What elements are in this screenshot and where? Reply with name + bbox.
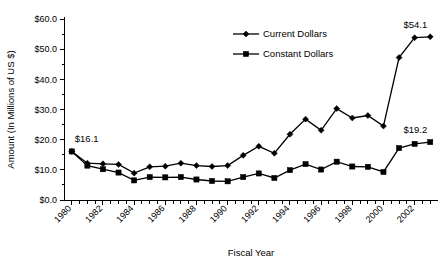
- x-axis-tick-label: 1994: [270, 203, 291, 224]
- series-constant-dollars: [69, 139, 433, 183]
- y-axis-title-group: Amount (In Millions of US $): [5, 50, 16, 168]
- x-axis-tick-label-group: 2002: [395, 203, 416, 224]
- y-axis-tick-label: $10.0: [34, 165, 57, 175]
- line-chart: $0.0$10.0$20.0$30.0$40.0$50.0$60.0198019…: [0, 0, 444, 263]
- data-point-marker: [272, 175, 277, 180]
- x-axis-tick-label-group: 1980: [52, 203, 73, 224]
- data-point-marker: [85, 163, 90, 168]
- data-point-marker: [209, 178, 214, 183]
- x-axis-tick-label-group: 1988: [177, 203, 198, 224]
- data-point-marker: [116, 161, 122, 167]
- x-axis-tick-label-group: 1994: [270, 203, 291, 224]
- data-point-marker: [132, 178, 137, 183]
- y-axis-tick-label: $20.0: [34, 135, 57, 145]
- data-point-marker: [428, 139, 433, 144]
- data-point-marker: [100, 167, 105, 172]
- legend-label: Current Dollars: [263, 28, 327, 39]
- x-axis-tick-label-group: 1996: [301, 203, 322, 224]
- data-label-annotation: $16.1: [75, 133, 99, 144]
- y-axis-title: Amount (In Millions of US $): [5, 50, 16, 168]
- data-point-marker: [225, 179, 230, 184]
- data-point-marker: [381, 169, 386, 174]
- legend-marker-square: [243, 51, 248, 56]
- x-axis-tick-label: 1998: [332, 203, 353, 224]
- x-axis-tick-label: 1980: [52, 203, 73, 224]
- data-point-marker: [178, 174, 183, 179]
- data-point-marker: [241, 174, 246, 179]
- x-axis-title: Fiscal Year: [228, 247, 274, 258]
- series-line: [72, 37, 430, 173]
- chart-container: $0.0$10.0$20.0$30.0$40.0$50.0$60.0198019…: [0, 0, 444, 263]
- series-line: [72, 142, 430, 181]
- x-axis-tick-label-group: 1992: [239, 203, 260, 224]
- data-point-marker: [256, 143, 262, 149]
- x-axis-tick-label-group: 2000: [364, 203, 385, 224]
- data-point-marker: [209, 164, 215, 170]
- x-axis-tick-label: 1996: [301, 203, 322, 224]
- series-current-dollars: [69, 34, 433, 176]
- y-axis-tick-label: $0.0: [39, 195, 57, 205]
- x-axis-tick-label: 2002: [395, 203, 416, 224]
- x-axis-tick-label: 1982: [83, 203, 104, 224]
- x-axis-tick-label: 1992: [239, 203, 260, 224]
- data-point-marker: [349, 115, 355, 121]
- x-axis-tick-label-group: 1990: [208, 203, 229, 224]
- x-axis-tick-label-group: 1998: [332, 203, 353, 224]
- data-point-marker: [365, 164, 370, 169]
- x-axis-tick-label: 2000: [364, 203, 385, 224]
- data-point-marker: [147, 174, 152, 179]
- data-point-marker: [116, 170, 121, 175]
- data-point-marker: [319, 167, 324, 172]
- data-point-marker: [256, 171, 261, 176]
- data-point-marker: [287, 168, 292, 173]
- x-axis-tick-label-group: 1986: [145, 203, 166, 224]
- chart-legend: Current DollarsConstant Dollars: [233, 28, 333, 59]
- x-axis-tick-label: 1988: [177, 203, 198, 224]
- legend-label: Constant Dollars: [263, 48, 333, 59]
- x-axis-tick-label: 1990: [208, 203, 229, 224]
- data-point-marker: [350, 164, 355, 169]
- y-axis-tick-label: $40.0: [34, 75, 57, 85]
- data-point-marker: [193, 163, 199, 169]
- data-point-marker: [163, 175, 168, 180]
- data-label-annotation: $54.1: [403, 19, 427, 30]
- data-point-marker: [147, 164, 153, 170]
- data-point-marker: [178, 160, 184, 166]
- data-point-marker: [396, 146, 401, 151]
- data-point-marker: [412, 141, 417, 146]
- legend-marker-diamond: [243, 31, 249, 37]
- data-label-annotation: $19.2: [403, 124, 427, 135]
- x-axis-tick-label: 1984: [114, 203, 135, 224]
- data-point-marker: [162, 163, 168, 169]
- y-axis-tick-label: $60.0: [34, 14, 57, 24]
- x-axis-tick-label: 1986: [145, 203, 166, 224]
- data-point-marker: [100, 161, 106, 167]
- data-point-marker: [131, 170, 137, 176]
- data-point-marker: [69, 149, 74, 154]
- x-axis-tick-label-group: 1982: [83, 203, 104, 224]
- data-point-marker: [194, 177, 199, 182]
- data-point-marker: [427, 34, 433, 40]
- data-point-marker: [334, 159, 339, 164]
- data-point-marker: [303, 162, 308, 167]
- y-axis-tick-label: $50.0: [34, 44, 57, 54]
- y-axis-tick-label: $30.0: [34, 105, 57, 115]
- x-axis-tick-label-group: 1984: [114, 203, 135, 224]
